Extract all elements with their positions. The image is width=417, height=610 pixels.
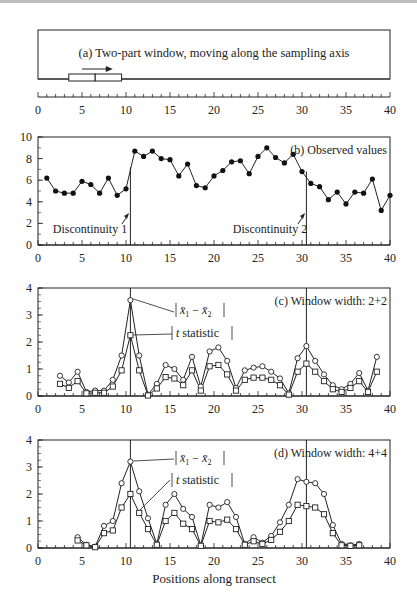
filled-circle-marker — [123, 186, 128, 191]
filled-circle-marker — [352, 189, 357, 194]
filled-circle-marker — [211, 173, 216, 178]
filled-circle-marker — [167, 157, 172, 162]
open-square-marker — [321, 379, 326, 384]
panel-c-title-text: (c) Window width: 2+2 — [275, 294, 387, 308]
open-square-marker — [277, 529, 282, 534]
open-square-marker — [84, 391, 89, 396]
open-square-marker — [304, 504, 309, 509]
open-square-marker — [128, 333, 133, 338]
open-square-marker — [93, 545, 98, 550]
filled-circle-marker — [255, 154, 260, 159]
open-square-marker — [365, 389, 370, 394]
open-square-marker — [145, 393, 150, 398]
mean-difference-label: x̄1 − x̄2 — [176, 303, 224, 319]
open-circle-marker — [181, 506, 186, 511]
open-square-marker — [357, 379, 362, 384]
filled-circle-marker — [308, 181, 313, 186]
open-square-marker — [66, 385, 71, 390]
open-square-marker — [84, 543, 89, 548]
open-square-marker — [260, 541, 265, 546]
open-square-marker — [339, 389, 344, 394]
open-square-marker — [75, 538, 80, 543]
open-circle-marker — [225, 358, 230, 363]
y-tick-label: 4 — [26, 281, 32, 295]
t-statistic-label: t statistic — [172, 473, 232, 487]
filled-circle-marker — [317, 184, 322, 189]
arrow-right-icon — [106, 66, 113, 72]
open-square-marker — [198, 543, 203, 548]
x-tick-label: 40 — [384, 554, 396, 568]
open-circle-marker — [189, 514, 194, 519]
open-circle-marker — [172, 491, 177, 496]
x-tick-label: 15 — [164, 103, 176, 117]
open-square-marker — [295, 369, 300, 374]
filled-circle-marker — [379, 208, 384, 213]
leader-line — [133, 299, 174, 312]
filled-circle-marker — [97, 191, 102, 196]
open-square-marker — [207, 364, 212, 369]
filled-circle-marker — [141, 154, 146, 159]
mean-difference-text: x̄1 − x̄2 — [179, 303, 211, 319]
x-tick-label: 25 — [252, 402, 264, 416]
y-tick-label: 2 — [26, 487, 32, 501]
open-square-marker — [321, 512, 326, 517]
leader-line — [133, 459, 174, 461]
open-square-marker — [242, 542, 247, 547]
open-circle-marker — [357, 370, 362, 375]
y-tick-label: 4 — [26, 195, 32, 209]
open-square-marker — [198, 388, 203, 393]
open-circle-marker — [163, 362, 168, 367]
open-square-marker — [93, 390, 98, 395]
open-circle-marker — [137, 489, 142, 494]
open-circle-marker — [57, 373, 62, 378]
open-square-marker — [207, 518, 212, 523]
open-square-marker — [330, 531, 335, 536]
open-square-marker — [216, 362, 221, 367]
y-tick-label: 8 — [26, 152, 32, 166]
open-square-marker — [110, 384, 115, 389]
open-square-marker — [137, 368, 142, 373]
x-tick-label: 10 — [120, 103, 132, 117]
open-square-marker — [119, 505, 124, 510]
x-tick-label: 5 — [79, 554, 85, 568]
filled-circle-marker — [370, 177, 375, 182]
open-square-marker — [225, 517, 230, 522]
filled-circle-marker — [238, 158, 243, 163]
open-circle-marker — [233, 514, 238, 519]
open-circle-marker — [207, 349, 212, 354]
open-square-marker — [374, 369, 379, 374]
open-square-marker — [110, 528, 115, 533]
open-square-marker — [286, 392, 291, 397]
panel-b-title-text: (b) Observed values — [290, 143, 387, 157]
open-square-marker — [357, 543, 362, 548]
x-tick-label: 35 — [340, 251, 352, 265]
open-square-marker — [304, 361, 309, 366]
x-tick-label: 15 — [164, 554, 176, 568]
open-square-marker — [233, 388, 238, 393]
filled-circle-marker — [150, 148, 155, 153]
open-circle-marker — [295, 477, 300, 482]
open-circle-marker — [251, 365, 256, 370]
x-tick-label: 20 — [208, 103, 220, 117]
panel-a: (a) Two-part window, moving along the sa… — [35, 30, 396, 117]
x-tick-label: 0 — [35, 554, 41, 568]
x-tick-label: 5 — [79, 251, 85, 265]
open-square-marker — [119, 368, 124, 373]
arrow-icon — [300, 213, 305, 219]
x-tick-label: 30 — [296, 251, 308, 265]
open-square-marker — [189, 368, 194, 373]
filled-circle-marker — [71, 191, 76, 196]
open-circle-marker — [304, 479, 309, 484]
x-tick-label: 35 — [340, 402, 352, 416]
open-square-marker — [295, 502, 300, 507]
x-tick-label: 30 — [296, 402, 308, 416]
open-circle-marker — [321, 491, 326, 496]
open-circle-marker — [128, 298, 133, 303]
x-tick-label: 10 — [120, 554, 132, 568]
filled-circle-marker — [115, 193, 120, 198]
y-tick-label: 6 — [26, 173, 32, 187]
open-circle-marker — [189, 354, 194, 359]
x-tick-label: 10 — [120, 251, 132, 265]
open-circle-marker — [75, 369, 80, 374]
open-square-marker — [101, 390, 106, 395]
